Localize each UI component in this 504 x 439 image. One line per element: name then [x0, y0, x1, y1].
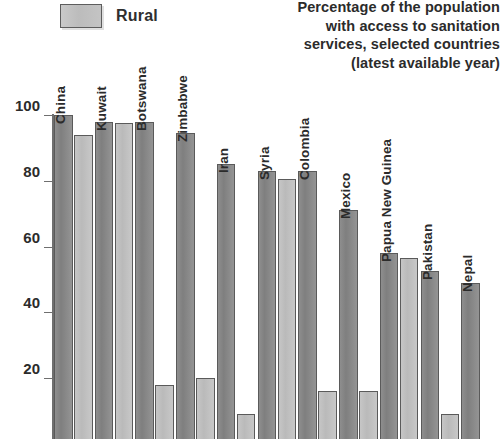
y-tick-label-60: 60	[0, 229, 40, 246]
country-label-nepal: Nepal	[460, 254, 475, 291]
bars-layer	[0, 0, 504, 439]
bar-nepal-urban	[461, 283, 480, 439]
bar-papua-new-guinea-rural	[400, 258, 419, 439]
country-label-zimbabwe: Zimbabwe	[175, 75, 190, 142]
bar-iran-urban	[217, 164, 236, 439]
bar-china-rural	[74, 135, 93, 439]
country-label-pakistan: Pakistan	[420, 224, 435, 280]
bar-pakistan-rural	[441, 414, 460, 439]
country-label-syria: Syria	[257, 146, 272, 180]
y-tick-label-100: 100	[0, 97, 40, 114]
bar-botswana-rural	[155, 385, 174, 439]
y-tick-label-20: 20	[0, 360, 40, 377]
bar-syria-urban	[258, 171, 277, 439]
y-tick-label-80: 80	[0, 163, 40, 180]
y-tick-40	[44, 312, 53, 313]
country-label-iran: Iran	[216, 148, 231, 173]
bar-mexico-rural	[359, 391, 378, 439]
country-label-china: China	[53, 86, 68, 124]
bar-pakistan-urban	[421, 271, 440, 439]
country-label-kuwait: Kuwait	[94, 86, 109, 131]
country-label-papua-new-guinea: Papua New Guinea	[379, 139, 394, 262]
bar-zimbabwe-rural	[196, 378, 215, 439]
y-tick-100	[44, 115, 53, 116]
bar-kuwait-rural	[115, 123, 134, 439]
bar-colombia-urban	[298, 171, 317, 439]
country-label-colombia: Colombia	[297, 118, 312, 180]
bar-papua-new-guinea-urban	[380, 253, 399, 439]
bar-mexico-urban	[339, 210, 358, 439]
plot-area: 20406080100 ChinaKuwaitBotswanaZimbabweI…	[0, 0, 504, 439]
country-label-mexico: Mexico	[338, 173, 353, 219]
bar-kuwait-urban	[95, 122, 114, 439]
y-tick-label-40: 40	[0, 294, 40, 311]
y-tick-60	[44, 247, 53, 248]
bar-botswana-urban	[135, 122, 154, 439]
bar-china-urban	[54, 115, 73, 439]
bar-syria-rural	[278, 179, 297, 439]
bar-colombia-rural	[318, 391, 337, 439]
sanitation-bar-chart: Rural Percentage of the population with …	[0, 0, 504, 439]
country-label-botswana: Botswana	[134, 66, 149, 131]
y-tick-20	[44, 378, 53, 379]
y-tick-80	[44, 181, 53, 182]
bar-zimbabwe-urban	[176, 133, 195, 439]
bar-iran-rural	[237, 414, 256, 439]
